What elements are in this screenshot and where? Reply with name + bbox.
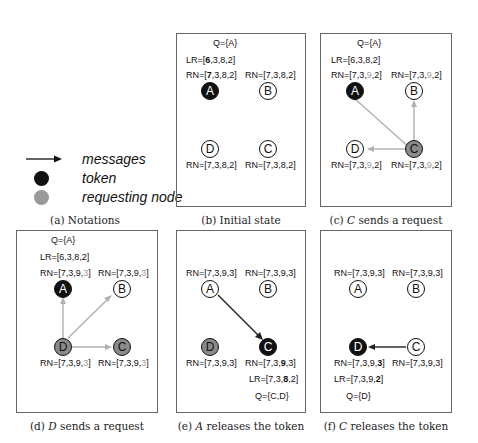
rn-label-d: RN=[7,3,9,3] <box>40 358 91 369</box>
node-b: B <box>113 280 131 298</box>
rn-label-d: RN=[7,3,9,2] <box>331 160 382 171</box>
lr-label: LR=[6,3,8,2] <box>186 55 235 66</box>
lr-label: LR=[6,3,8,2] <box>331 55 380 66</box>
node-a: A <box>201 82 219 100</box>
caption-f: (f) C releases the token <box>320 420 452 432</box>
lr-label: LR=[7,3,8,2] <box>249 374 298 385</box>
rn-label-d: RN=[7,3,8,2] <box>186 160 237 171</box>
rn-label-b: RN=[7,3,9,2] <box>391 70 442 81</box>
rn-label-a: RN=[7,3,9,3] <box>186 268 237 279</box>
queue-label: Q={D} <box>346 391 371 402</box>
node-a: A <box>349 280 367 298</box>
node-a: A <box>54 280 72 298</box>
panel-c-releases-token <box>320 230 452 413</box>
node-b: B <box>259 280 277 298</box>
rn-label-c: RN=[7,3,9,3] <box>245 358 296 369</box>
rn-label-b: RN=[7,3,8,2] <box>245 70 296 81</box>
node-b: B <box>259 82 277 100</box>
node-c: C <box>407 338 425 356</box>
lr-label: LR=[6,3,8,2] <box>40 252 89 263</box>
node-d: D <box>54 338 72 356</box>
caption-e: (e) A releases the token <box>176 420 306 432</box>
queue-label: Q={A} <box>357 38 381 49</box>
rn-label-c: RN=[7,3,9,2] <box>391 160 442 171</box>
rn-label-b: RN=[7,3,9,3] <box>245 268 296 279</box>
rn-label-a: RN=[7,3,9,3] <box>334 268 385 279</box>
rn-label-b: RN=[7,3,9,3] <box>392 268 443 279</box>
panel-a-releases-token <box>176 230 306 413</box>
node-d: D <box>346 140 364 158</box>
rn-label-b: RN=[7,3,9,3] <box>98 268 149 279</box>
caption-a: (a) Notations <box>20 214 150 226</box>
rn-label-d: RN=[7,3,9,3] <box>186 358 237 369</box>
requesting-circle-icon <box>34 190 49 205</box>
node-c: C <box>113 338 131 356</box>
node-c: C <box>259 338 277 356</box>
caption-d: (d) D sends a request <box>16 420 158 432</box>
rn-label-a: RN=[7,3,9,3] <box>40 268 91 279</box>
node-c: C <box>259 140 277 158</box>
arrow-icon <box>26 151 66 167</box>
caption-b: (b) Initial state <box>176 214 306 226</box>
rn-label-a: RN=[7,3,9,2] <box>331 70 382 81</box>
token-circle-icon <box>34 171 49 186</box>
rn-label-c: RN=[7,3,8,2] <box>245 160 296 171</box>
node-a: A <box>201 280 219 298</box>
node-a: A <box>346 82 364 100</box>
lr-label: LR=[7,3,9,2] <box>334 374 383 385</box>
rn-label-a: RN=[7,3,8,2] <box>186 70 237 81</box>
node-b: B <box>407 280 425 298</box>
node-d: D <box>349 338 367 356</box>
rn-label-c: RN=[7,3,9,3] <box>98 358 149 369</box>
rn-label-c: RN=[7,3,9,3] <box>392 358 443 369</box>
queue-label: Q={C,D} <box>255 391 289 402</box>
node-d: D <box>201 338 219 356</box>
node-d: D <box>201 140 219 158</box>
node-c: C <box>405 140 423 158</box>
caption-c: (c) C sends a request <box>320 214 452 226</box>
rn-label-d: RN=[7,3,9,3] <box>334 358 385 369</box>
queue-label: Q={A} <box>213 38 237 49</box>
queue-label: Q={A} <box>51 235 75 246</box>
node-b: B <box>405 82 423 100</box>
